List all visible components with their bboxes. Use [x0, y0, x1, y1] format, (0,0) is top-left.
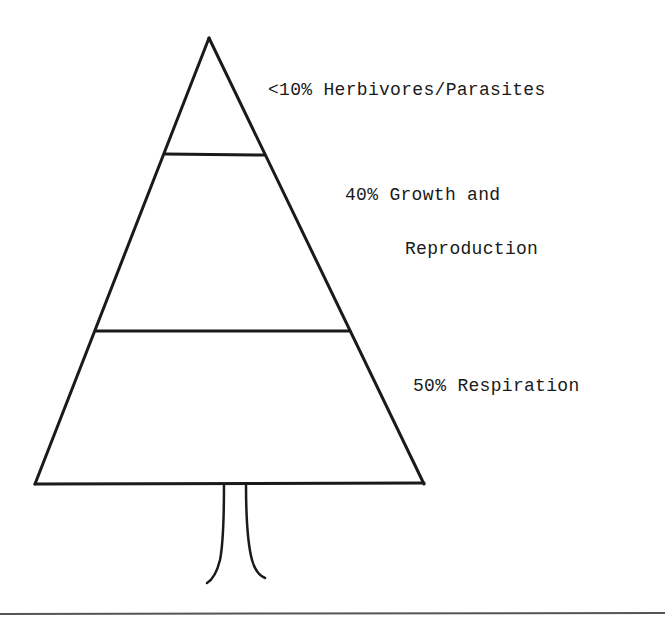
tier-label-growth-line1: 40% Growth and — [345, 185, 500, 205]
pyramid-base-line — [35, 483, 424, 484]
trunk-left-line — [207, 484, 224, 583]
pyramid-left-edge — [35, 38, 209, 484]
tier-label-herbivores-parasites: <10% Herbivores/Parasites — [268, 80, 546, 100]
page-bottom-rule — [0, 613, 665, 614]
trunk-right-line — [246, 484, 265, 578]
tier-label-growth-line2: Reproduction — [405, 239, 538, 259]
pyramid-right-edge — [209, 38, 424, 484]
tier-divider-top — [165, 154, 265, 155]
tier-label-respiration: 50% Respiration — [413, 376, 580, 396]
